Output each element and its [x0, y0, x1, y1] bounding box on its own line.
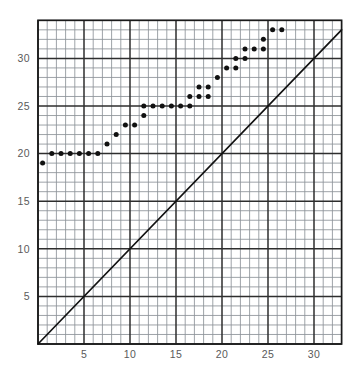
data-point	[178, 104, 183, 109]
data-point	[114, 132, 119, 137]
data-point	[197, 84, 202, 89]
y-tick-label: 30	[18, 52, 30, 64]
y-tick-label: 15	[18, 195, 30, 207]
data-point	[68, 151, 73, 156]
data-point	[95, 151, 100, 156]
data-point	[105, 142, 110, 147]
data-point	[206, 94, 211, 99]
y-tick-label: 5	[24, 290, 30, 302]
x-axis-tick-labels: 51015202530	[81, 348, 320, 360]
data-point	[233, 65, 238, 70]
data-point	[233, 56, 238, 61]
y-axis-tick-labels: 51015202530	[18, 52, 30, 302]
data-point	[224, 65, 229, 70]
data-point	[141, 113, 146, 118]
data-point	[49, 151, 54, 156]
data-point	[160, 104, 165, 109]
data-point	[169, 104, 174, 109]
y-tick-label: 25	[18, 100, 30, 112]
data-point	[151, 104, 156, 109]
data-point	[279, 27, 284, 32]
x-tick-label: 5	[81, 348, 87, 360]
data-point	[40, 161, 45, 166]
data-point	[270, 27, 275, 32]
data-point	[77, 151, 82, 156]
data-point	[243, 46, 248, 51]
x-tick-label: 30	[308, 348, 320, 360]
data-point	[243, 56, 248, 61]
data-point	[206, 84, 211, 89]
y-tick-label: 20	[18, 147, 30, 159]
data-point	[252, 46, 257, 51]
data-point	[141, 104, 146, 109]
data-point	[187, 94, 192, 99]
x-tick-label: 25	[262, 348, 274, 360]
x-tick-label: 10	[124, 348, 136, 360]
x-tick-label: 15	[170, 348, 182, 360]
data-point	[187, 104, 192, 109]
y-tick-label: 10	[18, 243, 30, 255]
data-point	[215, 75, 220, 80]
x-tick-label: 20	[216, 348, 228, 360]
data-point	[261, 46, 266, 51]
chart-figure: 5101520253051015202530	[0, 0, 360, 379]
data-point	[132, 123, 137, 128]
data-point	[197, 94, 202, 99]
data-point	[59, 151, 64, 156]
data-point	[261, 37, 266, 42]
data-point	[86, 151, 91, 156]
data-point	[123, 123, 128, 128]
